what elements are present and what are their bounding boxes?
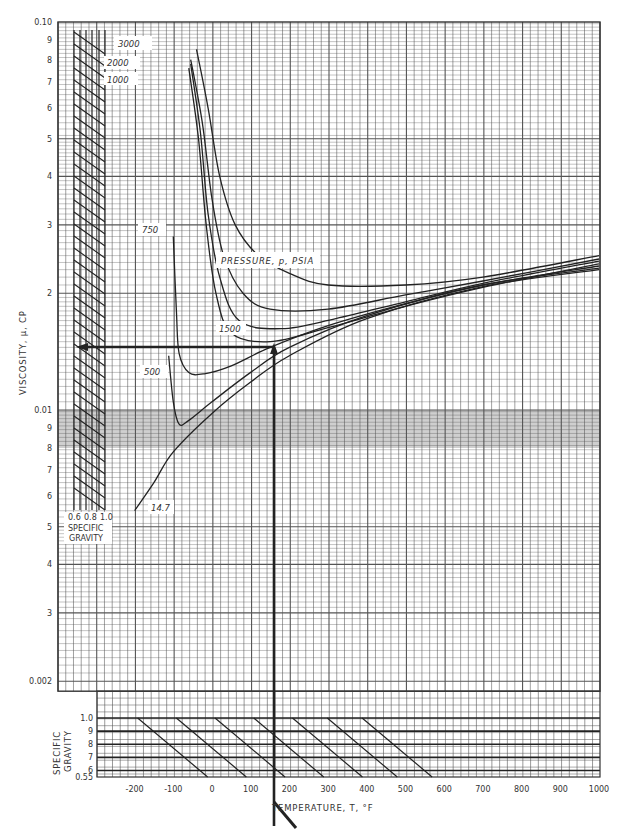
sg-inset-labels: 0.6 0.8 1.0 SPECIFIC GRAVITY [64,512,113,544]
y-tick-label: 6 [47,492,52,501]
sg-inset-label: SPECIFIC [68,524,104,533]
curve-label-1500: 1500 [219,324,241,334]
y-axis-label: VISCOSITY, μ, CP [18,310,28,395]
x-tick-label: 0 [209,785,214,794]
y-tick-label: 7 [47,78,52,87]
x-axis-label: TEMPERATURE, T, °F [271,803,373,813]
x-tick-label: 500 [398,785,413,794]
viscosity-chart: 1.098760.55 0.10987654320.0198765430.002… [0,0,624,834]
x-tick-label: 300 [320,785,335,794]
sg-inset-tick: 0.8 [84,513,97,522]
x-tick-label: -200 [126,785,144,794]
y-tick-label: 2 [47,289,52,298]
y-tick-label: 0.01 [34,406,52,415]
sg-bottom-label: SPECIFIC [52,731,62,775]
y-tick-label: 8 [47,444,52,453]
y-tick-label: 3 [47,609,52,618]
y-tick-label: 0.10 [34,18,52,27]
x-tick-label: 800 [514,785,529,794]
y-tick-label: 5 [47,135,52,144]
curve-label-750: 750 [142,225,158,235]
y-tick-label: 8 [47,56,52,65]
sg-tick-label: 1.0 [80,714,93,723]
sg-tick-label: 0.55 [75,773,93,782]
y-tick-label: 9 [47,36,52,45]
x-tick-label: 900 [553,785,568,794]
sg-tick-label: 7 [88,753,93,762]
x-tick-label: 700 [475,785,490,794]
sg-inset-tick: 1.0 [100,513,113,522]
x-tick-label: 400 [359,785,374,794]
curve-label-500: 500 [144,367,160,377]
curve-3000 [197,49,600,286]
y-tick-label: 0.002 [29,677,52,686]
sg-inset-label: GRAVITY [69,534,103,543]
y-tick-label: 5 [47,523,52,532]
curve-label-2000: 2000 [107,58,129,68]
specific-gravity-bottom-scale: 1.098760.55 [75,691,600,782]
y-tick-label: 4 [47,560,52,569]
y-tick-label: 4 [47,172,52,181]
y-tick-label: 3 [47,221,52,230]
x-tick-label: 600 [437,785,452,794]
grid [58,22,600,691]
curve-label-14-7: 14.7 [151,503,171,513]
sg-bottom-label: GRAVITY [63,730,73,772]
x-tick-label: -100 [164,785,182,794]
legend-title: PRESSURE, p, PSIA [221,256,314,266]
x-tick-label: 200 [282,785,297,794]
y-tick-label: 7 [47,466,52,475]
sg-inset-tick: 0.6 [68,513,81,522]
curve-14-7 [135,270,599,511]
curve-label-1000: 1000 [107,75,129,85]
y-tick-label: 9 [47,424,52,433]
curve-label-3000: 3000 [118,39,140,49]
sg-tick-label: 8 [88,740,93,749]
x-tick-label: 100 [243,785,258,794]
sg-tick-label: 9 [88,727,93,736]
x-tick-label: 1000 [589,785,609,794]
y-tick-label: 6 [47,104,52,113]
